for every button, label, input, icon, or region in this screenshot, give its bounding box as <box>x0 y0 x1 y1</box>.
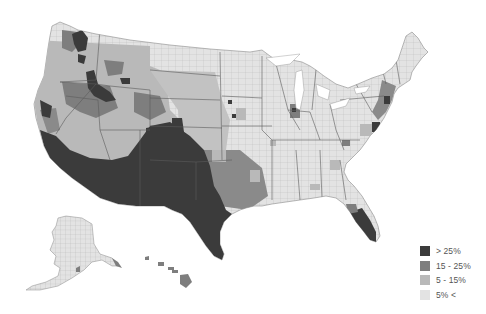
legend-item-15-25: 15 - 25% <box>420 259 486 274</box>
legend-label: 15 - 25% <box>436 261 471 271</box>
legend-swatch <box>420 275 430 285</box>
hawaii <box>145 256 192 288</box>
legend-item-5-15: 5 - 15% <box>420 273 486 288</box>
legend-label: > 25% <box>436 246 461 256</box>
legend-item-over-25: > 25% <box>420 244 486 259</box>
legend-swatch <box>420 290 430 300</box>
legend-swatch <box>420 246 430 256</box>
continental-us <box>34 22 428 260</box>
legend-item-under-5: 5% < <box>420 288 486 303</box>
legend-swatch <box>420 261 430 271</box>
legend-label: 5% < <box>436 290 456 300</box>
alaska <box>26 216 122 290</box>
us-county-choropleth-map <box>0 0 486 314</box>
legend-label: 5 - 15% <box>436 275 466 285</box>
legend: > 25% 15 - 25% 5 - 15% 5% < <box>420 244 486 302</box>
